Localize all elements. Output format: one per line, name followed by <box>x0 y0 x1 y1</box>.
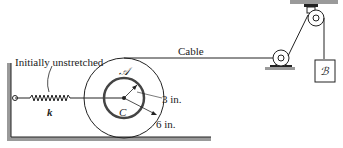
ceiling <box>290 0 338 4</box>
spring <box>30 95 70 101</box>
wall <box>7 63 11 139</box>
ceiling-pulley <box>308 10 324 26</box>
disk-label: 𝒜 <box>119 65 133 77</box>
spring-note-label: Initially unstretched <box>15 56 104 68</box>
ground <box>7 137 211 141</box>
inner-radius-label: 3 in. <box>162 93 182 105</box>
block-label: ℬ <box>320 65 330 77</box>
spring-constant-label: k <box>47 106 53 118</box>
outer-radius-label: 6 in. <box>156 118 176 130</box>
floor-pulley <box>273 50 289 66</box>
center-label: C <box>119 106 127 118</box>
mechanics-diagram: Initially unstretched k 𝒜 C 3 in. 6 in. … <box>0 0 343 148</box>
cable-label: Cable <box>178 45 204 57</box>
